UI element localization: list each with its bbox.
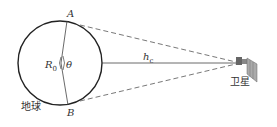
point-b-label: B: [67, 108, 74, 118]
earth-circle: [18, 21, 102, 105]
angle-arc: [63, 56, 65, 70]
height-label: hc: [143, 52, 153, 65]
radius-symbol: R: [45, 59, 53, 70]
earth-satellite-diagram: A B R0 θ hc 地球 卫星: [0, 0, 277, 127]
angle-arc-inner: [60, 57, 62, 69]
diagram-canvas: [0, 0, 277, 127]
radius-line-a: [61, 21, 67, 63]
point-a-label: A: [67, 9, 74, 19]
satellite-label: 卫星: [230, 77, 250, 87]
angle-label: θ: [66, 60, 72, 70]
tangent-line-b: [80, 64, 236, 101]
radius-label: R0: [45, 60, 57, 73]
radius-subscript: 0: [53, 65, 57, 73]
tangent-line-a: [80, 25, 236, 62]
height-subscript: c: [149, 57, 153, 65]
earth-label: 地球: [21, 102, 41, 112]
